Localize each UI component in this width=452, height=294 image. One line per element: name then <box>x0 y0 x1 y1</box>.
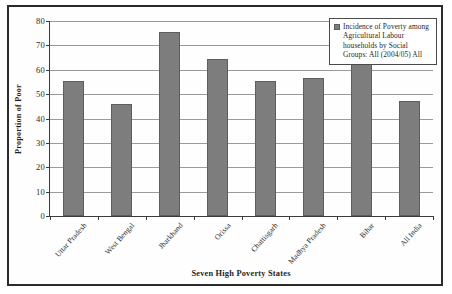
legend-color-swatch-icon <box>334 24 340 30</box>
x-axis-tick-mark <box>385 216 386 220</box>
x-axis-category-label: Jharkhand <box>156 221 184 251</box>
gridline <box>50 94 433 95</box>
legend-entry: Incidence of Poverty among Agricultural … <box>334 22 432 60</box>
y-axis-tick-label: 40 <box>36 114 45 124</box>
y-axis-tick-mark <box>46 21 50 22</box>
x-axis-tick-mark <box>194 216 195 220</box>
x-axis-category-label: Madhya Pradesh <box>287 221 329 266</box>
bar <box>399 101 420 216</box>
y-axis-tick-mark <box>46 143 50 144</box>
y-axis-tick-mark <box>46 94 50 95</box>
x-axis-title: Seven High Poverty States <box>49 269 433 278</box>
x-axis-tick-mark <box>337 216 338 220</box>
y-axis-tick-mark <box>46 167 50 168</box>
x-axis-tick-mark <box>146 216 147 220</box>
x-axis-tick-mark <box>289 216 290 220</box>
y-axis-tick-label: 10 <box>36 187 45 197</box>
x-axis-category-label: West Bengal <box>103 221 136 256</box>
bar <box>63 81 84 216</box>
y-axis-tick-label: 60 <box>36 65 45 75</box>
y-axis-tick-mark <box>46 119 50 120</box>
y-axis-tick-label: 30 <box>36 138 45 148</box>
x-axis-category-label: All India <box>398 221 423 248</box>
x-axis-category-label: Orissa <box>212 221 232 242</box>
bar <box>159 32 180 216</box>
y-axis-tick-mark <box>46 70 50 71</box>
legend-label: Incidence of Poverty among Agricultural … <box>343 22 432 60</box>
x-axis-category-label: Chattisgarh <box>249 221 280 254</box>
y-axis-tick-mark <box>46 192 50 193</box>
y-axis-tick-label: 70 <box>36 40 45 50</box>
y-axis-tick-label: 20 <box>36 162 45 172</box>
bar <box>255 81 276 216</box>
x-axis-tick-mark <box>242 216 243 220</box>
bar <box>207 59 228 216</box>
gridline <box>50 143 433 144</box>
y-axis-tick-label: 0 <box>41 211 45 221</box>
bar <box>303 78 324 216</box>
y-axis-tick-label: 80 <box>36 16 45 26</box>
gridline <box>50 167 433 168</box>
chart-legend: Incidence of Poverty among Agricultural … <box>329 18 437 65</box>
x-axis-tick-mark <box>98 216 99 220</box>
gridline <box>50 119 433 120</box>
gridline <box>50 70 433 71</box>
bar <box>111 104 132 216</box>
gridline <box>50 192 433 193</box>
bar <box>351 50 372 216</box>
plot-wrapper: Proportion of Poor 01020304050607080 Sev… <box>9 7 441 284</box>
chart-frame: Proportion of Poor 01020304050607080 Sev… <box>7 5 443 286</box>
x-axis-category-label: Bihar <box>358 221 376 240</box>
y-axis-tick-mark <box>46 45 50 46</box>
x-axis-category-label: Uttar Pradesh <box>53 221 88 259</box>
x-axis-tick-mark <box>433 216 434 220</box>
y-axis-tick-label: 50 <box>36 89 45 99</box>
x-axis-tick-mark <box>50 216 51 220</box>
y-axis-title: Proportion of Poor <box>14 84 23 154</box>
